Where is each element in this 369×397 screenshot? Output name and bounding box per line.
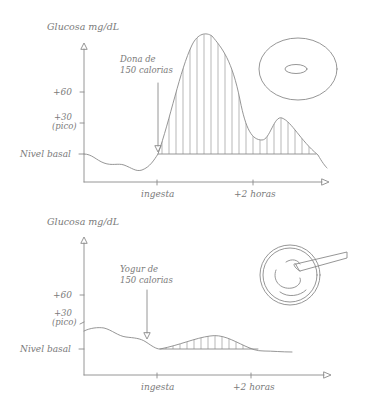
bottom-x-2h: +2 horas bbox=[233, 382, 275, 392]
bottom-tick-basal: Nivel basal bbox=[19, 344, 71, 354]
top-tick-30-sub: (pico) bbox=[52, 121, 77, 131]
bottom-y-axis-arrow-icon bbox=[81, 237, 87, 243]
bottom-tick-60: +60 bbox=[53, 290, 72, 300]
spoon-handle bbox=[296, 252, 347, 271]
bottom-chart: Glucosa mg/dL +60 +30 (pico) Nivel basal… bbox=[19, 216, 347, 392]
donut-icon bbox=[259, 38, 337, 100]
top-x-2h: +2 horas bbox=[234, 189, 276, 199]
bottom-tick-30-sub: (pico) bbox=[52, 317, 77, 327]
bottom-note-arrowhead-icon bbox=[144, 333, 150, 339]
top-x-axis-arrow-icon bbox=[322, 179, 329, 185]
bottom-note-line1: Yogur de bbox=[120, 264, 158, 274]
bottom-hatch-area bbox=[166, 330, 250, 350]
top-note-line2: 150 calorias bbox=[120, 65, 173, 75]
glucose-comparison-diagram: Glucosa mg/dL +60 +30 (pico) Nivel basal… bbox=[0, 0, 369, 397]
top-tick-basal: Nivel basal bbox=[19, 149, 71, 159]
bottom-y-axis-title: Glucosa mg/dL bbox=[47, 216, 119, 227]
top-y-axis-title: Glucosa mg/dL bbox=[47, 21, 119, 32]
bottom-glucose-curve bbox=[84, 328, 292, 352]
top-note-line1: Dona de bbox=[119, 54, 156, 64]
top-y-axis-arrow-icon bbox=[81, 43, 87, 49]
bottom-x-ingesta: ingesta bbox=[141, 382, 174, 392]
top-tick-60: +60 bbox=[53, 87, 72, 97]
yogurt-bowl-icon bbox=[260, 245, 347, 305]
top-hatch-area bbox=[162, 30, 309, 155]
top-chart: Glucosa mg/dL +60 +30 (pico) Nivel basal… bbox=[19, 21, 337, 199]
bottom-note-line2: 150 calorias bbox=[120, 275, 173, 285]
bottom-x-axis-arrow-icon bbox=[324, 372, 331, 378]
top-x-ingesta: ingesta bbox=[141, 189, 174, 199]
